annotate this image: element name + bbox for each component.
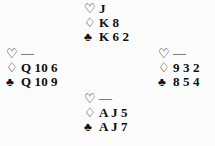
east-diamonds-cards: 9 3 2 [171,61,200,75]
north-hearts-row: ♡ J [84,2,129,16]
club-icon: ♣ [84,30,97,44]
south-clubs-cards: A J 7 [97,120,128,134]
west-clubs-cards: Q 10 9 [19,75,58,89]
hand-west: ♡ — ♢ Q 10 6 ♣ Q 10 9 [6,47,58,89]
east-clubs-row: ♣ 8 5 4 [158,75,200,89]
north-hearts-cards: J [97,2,106,16]
north-diamonds-cards: K 8 [97,16,119,30]
diamond-icon: ♢ [158,61,171,75]
east-hearts-row: ♡ — [158,47,200,61]
north-diamonds-row: ♢ K 8 [84,16,129,30]
club-icon: ♣ [84,120,97,134]
diamond-icon: ♢ [84,16,97,30]
bridge-hand-diagram: ♡ J ♢ K 8 ♣ K 6 2 ♡ — ♢ Q 10 6 ♣ Q 10 9 … [0,0,215,146]
heart-icon: ♡ [84,92,97,106]
north-clubs-cards: K 6 2 [97,30,129,44]
south-clubs-row: ♣ A J 7 [84,120,128,134]
hand-north: ♡ J ♢ K 8 ♣ K 6 2 [84,2,129,44]
heart-icon: ♡ [158,47,171,61]
south-hearts-row: ♡ — [84,92,128,106]
south-diamonds-cards: A J 5 [97,106,128,120]
south-hearts-cards: — [97,91,112,105]
north-clubs-row: ♣ K 6 2 [84,30,129,44]
west-hearts-cards: — [19,46,34,60]
west-diamonds-cards: Q 10 6 [19,61,58,75]
club-icon: ♣ [158,75,171,89]
diamond-icon: ♢ [84,106,97,120]
east-clubs-cards: 8 5 4 [171,75,200,89]
heart-icon: ♡ [6,47,19,61]
east-hearts-cards: — [171,46,186,60]
south-diamonds-row: ♢ A J 5 [84,106,128,120]
east-diamonds-row: ♢ 9 3 2 [158,61,200,75]
west-hearts-row: ♡ — [6,47,58,61]
west-clubs-row: ♣ Q 10 9 [6,75,58,89]
diamond-icon: ♢ [6,61,19,75]
hand-south: ♡ — ♢ A J 5 ♣ A J 7 [84,92,128,134]
hand-east: ♡ — ♢ 9 3 2 ♣ 8 5 4 [158,47,200,89]
club-icon: ♣ [6,75,19,89]
west-diamonds-row: ♢ Q 10 6 [6,61,58,75]
heart-icon: ♡ [84,2,97,16]
